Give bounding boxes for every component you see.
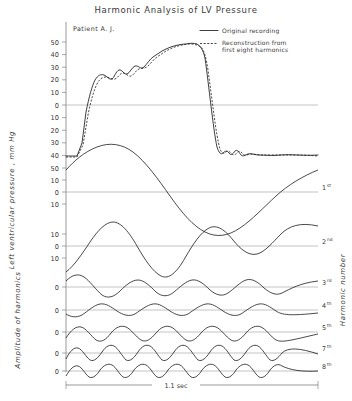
harmonic-label-3-sup: rd — [327, 278, 332, 283]
h2-tick-10m: 10 — [51, 255, 59, 263]
harmonic-label-1-num: 1 — [322, 184, 326, 192]
harmonic-label-7-sup: th — [327, 344, 332, 349]
tick-10-up: 10 — [51, 89, 59, 97]
figure-canvas: Harmonic Analysis of LV Pressure Patient… — [0, 0, 352, 401]
harmonic-label-4-sup: th — [327, 301, 332, 306]
page-title: Harmonic Analysis of LV Pressure — [94, 5, 257, 15]
tick-40-dn: 40 — [51, 152, 59, 160]
harmonic-panel-3: 0 3 rd — [55, 275, 332, 297]
y-axis-amplitude-label: Amplitude of harmonics — [14, 272, 22, 370]
h1-tick-0: 0 — [55, 189, 59, 197]
harmonic-panel-7: 0 7 th — [55, 344, 332, 361]
harmonic-label-8-num: 8 — [322, 363, 326, 371]
tick-20-up: 20 — [51, 76, 59, 84]
harmonic-label-8-sup: th — [327, 362, 332, 367]
tick-10-dn: 10 — [51, 114, 59, 122]
harmonic-label-2-num: 2 — [322, 238, 326, 246]
legend: Original recording Reconstruction from f… — [200, 27, 288, 54]
legend-label-reconstruction-line2: first eight harmonics — [222, 46, 288, 54]
tick-40-up: 40 — [51, 51, 59, 59]
h5-curve — [66, 326, 318, 341]
h3-curve — [66, 275, 318, 297]
harmonic-label-3-num: 3 — [322, 279, 326, 287]
y-axis-pressure-label: Left ventricular pressure , mm Hg — [8, 131, 16, 269]
tick-50-dn: 50 — [51, 165, 59, 173]
time-axis-label: 1.1 sec — [165, 382, 188, 390]
legend-label-reconstruction-line1: Reconstruction from — [222, 39, 287, 46]
legend-label-original: Original recording — [222, 27, 279, 35]
h3-tick-0: 0 — [55, 284, 59, 292]
h1-tick-10m: 10 — [51, 201, 59, 209]
harmonic-label-4-num: 4 — [322, 302, 326, 310]
tick-20-dn: 20 — [51, 127, 59, 135]
tick-30-up: 30 — [51, 64, 59, 72]
harmonic-panel-4: 0 4 th — [55, 301, 332, 317]
original-recording-curve — [66, 43, 318, 156]
patient-label: Patient A. J. — [73, 25, 115, 33]
harmonic-panel-1: 10 0 10 1 st — [51, 144, 332, 235]
harmonic-analysis-figure: Harmonic Analysis of LV Pressure Patient… — [0, 0, 352, 401]
h5-tick-0: 0 — [55, 329, 59, 337]
harmonic-panel-5: 0 5 th — [55, 323, 332, 342]
harmonic-label-7-num: 7 — [322, 345, 326, 353]
reconstruction-curve — [66, 44, 318, 157]
h4-tick-0: 0 — [55, 307, 59, 315]
harmonic-label-2-sup: nd — [327, 237, 333, 242]
h1-curve — [66, 144, 318, 235]
tick-30-dn: 30 — [51, 139, 59, 147]
harmonic-label-1-sup: st — [327, 183, 331, 188]
harmonic-panel-8: 0 8 th — [55, 362, 332, 378]
h8-tick-0: 0 — [55, 368, 59, 376]
h4-curve — [66, 304, 318, 317]
h2-curve — [66, 222, 318, 277]
harmonic-label-5-num: 5 — [322, 324, 326, 332]
pressure-panel: 50 40 30 20 10 0 10 20 30 40 50 — [51, 39, 318, 173]
right-axis-harmonic-label: Harmonic number — [339, 253, 347, 326]
h2-tick-10p: 10 — [51, 231, 59, 239]
harmonic-label-5-sup: th — [327, 323, 332, 328]
h2-tick-0: 0 — [55, 243, 59, 251]
h1-tick-10p: 10 — [51, 177, 59, 185]
harmonic-panel-2: 10 0 10 2 nd — [51, 222, 333, 277]
tick-0: 0 — [55, 102, 59, 110]
tick-50-up: 50 — [51, 39, 59, 47]
h7-tick-0: 0 — [55, 350, 59, 358]
time-axis: 1.1 sec — [66, 381, 318, 390]
pressure-ticks: 50 40 30 20 10 0 10 20 30 40 50 — [51, 39, 66, 173]
